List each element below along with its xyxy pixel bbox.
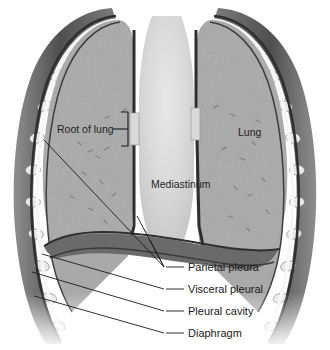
mediastinum: [139, 16, 194, 244]
label-visceral-pleural: Visceral pleural: [188, 283, 263, 295]
label-diaphragm: Diaphragm: [188, 327, 242, 339]
mediastinum-body: [139, 16, 194, 244]
label-lung: Lung: [238, 126, 262, 138]
label-root-of-lung: Root of lung: [57, 123, 114, 135]
label-mediastinum: Mediastinum: [151, 178, 211, 190]
root-of-lung-left-hilum: [130, 113, 139, 145]
root-of-lung-right-hilum: [191, 108, 200, 140]
root-of-lung-left: [130, 113, 139, 145]
root-of-lung-right: [191, 108, 200, 140]
label-pleural-cavity: Pleural cavity: [188, 305, 254, 317]
label-parietal-pleura: Parietal pleura: [188, 261, 260, 273]
diagram-canvas: Root of lung Lung Mediastinum Parietal p…: [0, 0, 330, 350]
thorax-anatomy-diagram: Root of lung Lung Mediastinum Parietal p…: [0, 0, 330, 350]
